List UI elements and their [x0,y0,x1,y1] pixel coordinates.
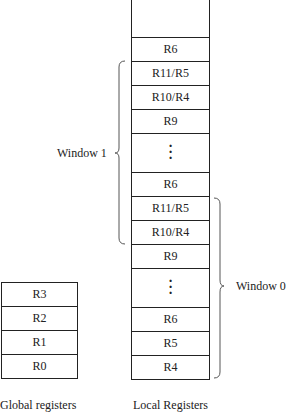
window-1-label: Window 1 [57,146,107,161]
window-0-brace [214,198,224,378]
window-1-brace [115,61,125,244]
brace-layer [0,0,287,417]
window-0-label: Window 0 [236,279,286,294]
global-registers-caption: Global registers [0,398,76,413]
local-registers-caption: Local Registers [133,398,208,413]
